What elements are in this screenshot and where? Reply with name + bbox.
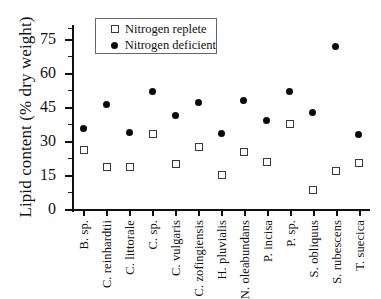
open-square-icon [105, 25, 125, 33]
data-point [309, 109, 316, 116]
legend-item[interactable]: Nitrogen deficient [96, 37, 216, 53]
y-tick-0: 0 [65, 209, 72, 211]
data-point [80, 146, 88, 154]
y-tick-30: 30 [65, 141, 72, 143]
x-axis-label: C. littorale [123, 220, 138, 275]
data-point [103, 101, 110, 108]
y-tick-minor-37.5 [68, 124, 72, 125]
x-tick-3 [152, 209, 154, 216]
data-point [218, 171, 226, 179]
data-point [80, 125, 87, 132]
data-point [263, 158, 271, 166]
data-point [240, 148, 248, 156]
data-point [309, 186, 317, 194]
y-tick-minor-67.5 [68, 56, 72, 57]
x-tick-12 [359, 209, 361, 216]
data-point [355, 131, 362, 138]
y-tick-minor-22.5 [68, 158, 72, 159]
x-tick-10 [313, 209, 315, 216]
x-tick-9 [290, 209, 292, 216]
y-axis-line [72, 25, 74, 212]
x-tick-0 [83, 209, 85, 216]
y-tick-label-75: 75 [40, 30, 56, 48]
plot-area: 01530456075 B. sp.C. reinhardtiiC. litto… [72, 28, 370, 209]
filled-circle-icon [105, 42, 125, 49]
x-tick-5 [198, 209, 200, 216]
x-axis-label: C. sp. [146, 220, 161, 249]
y-tick-75: 75 [65, 39, 72, 41]
y-tick-label-15: 15 [40, 166, 56, 184]
x-axis-label: B. sp. [77, 220, 92, 249]
x-tick-7 [244, 209, 246, 216]
x-axis-label: T. suecica [352, 220, 367, 271]
x-axis-label: P. sp. [283, 220, 298, 247]
y-tick-minor-7.5 [68, 192, 72, 193]
x-axis-line [70, 209, 370, 211]
data-point [355, 159, 363, 167]
y-axis-title: Lipid content (% dry weight) [16, 12, 38, 222]
data-point [126, 129, 133, 136]
x-tick-2 [129, 209, 131, 216]
data-point [149, 130, 157, 138]
data-point [149, 88, 156, 95]
x-axis-label: S. obliquus [306, 220, 321, 277]
y-tick-label-30: 30 [40, 132, 56, 150]
data-point [218, 130, 225, 137]
chart-legend: Nitrogen repleteNitrogen deficient [95, 18, 217, 54]
x-axis-label: H. pluvialis [215, 220, 230, 280]
x-tick-6 [221, 209, 223, 216]
y-tick-label-60: 60 [40, 64, 56, 82]
y-tick-minor-top [68, 28, 72, 29]
y-tick-15: 15 [65, 175, 72, 177]
data-point [332, 167, 340, 175]
legend-label: Nitrogen replete [125, 22, 207, 37]
x-axis-label: C. reinhardtii [100, 220, 115, 288]
x-tick-8 [267, 209, 269, 216]
data-point [103, 163, 111, 171]
x-axis-label: C. vulgaris [169, 220, 184, 276]
data-point [332, 43, 339, 50]
x-axis-label: P. incisa [260, 220, 275, 262]
data-point [172, 112, 179, 119]
y-tick-label-45: 45 [40, 98, 56, 116]
x-axis-label: C. zofingiensis [192, 220, 207, 297]
data-point [286, 120, 294, 128]
y-tick-minor-52.5 [68, 90, 72, 91]
data-point [195, 99, 202, 106]
legend-label: Nitrogen deficient [125, 38, 216, 53]
data-point [126, 163, 134, 171]
x-tick-1 [106, 209, 108, 216]
y-tick-label-0: 0 [48, 200, 56, 218]
data-point [263, 117, 270, 124]
y-tick-60: 60 [65, 73, 72, 75]
legend-item[interactable]: Nitrogen replete [96, 21, 216, 37]
x-tick-11 [336, 209, 338, 216]
data-point [172, 160, 180, 168]
x-axis-label: S. rubescens [329, 220, 344, 284]
x-axis-label: N. oleabundans [237, 220, 252, 299]
x-tick-4 [175, 209, 177, 216]
data-point [286, 88, 293, 95]
data-point [240, 97, 247, 104]
data-point [195, 143, 203, 151]
y-tick-45: 45 [65, 107, 72, 109]
